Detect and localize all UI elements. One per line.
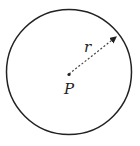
center-point [67,73,70,76]
radius-label: r [84,38,92,56]
radius-arrow [69,37,116,74]
center-label: P [63,80,75,98]
circle-diagram: P r [0,0,140,146]
circle [7,10,132,135]
